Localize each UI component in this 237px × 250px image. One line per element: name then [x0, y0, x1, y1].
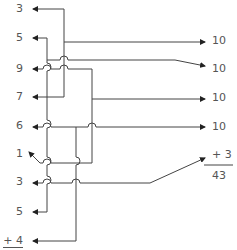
wire-1: [29, 99, 92, 163]
wire-6: [33, 123, 76, 127]
wire-plus-4: [33, 178, 76, 241]
right-number-2: 10: [212, 63, 226, 75]
wire-6-down: [76, 127, 80, 178]
left-number-2: 5: [16, 32, 23, 44]
wire-3-top: [33, 9, 64, 42]
right-number-3: 10: [212, 92, 226, 104]
left-number-7: 3: [16, 176, 23, 188]
wire-to-plus-3: [150, 158, 205, 183]
left-number-3: 9: [16, 63, 23, 75]
left-number-8: 5: [16, 206, 23, 218]
left-number-5: 6: [16, 120, 23, 132]
right-number-4: 10: [212, 121, 226, 133]
wire-9: [33, 65, 92, 99]
connector-lines: [0, 0, 237, 250]
wire-5-bottom: [33, 60, 51, 212]
left-number-1: 3: [16, 3, 23, 15]
wire-to-10-d: [76, 123, 205, 127]
left-number-6: 1: [16, 148, 23, 160]
addition-wire-diagram: 3 5 9 7 6 1 3 5 + 4 10 10 10 10 + 3 43: [0, 0, 237, 250]
wire-to-10-b: [47, 56, 205, 66]
wire-5-top: [33, 38, 47, 60]
sum-total: 43: [212, 170, 226, 182]
right-number-5: + 3: [212, 149, 232, 161]
right-number-1: 10: [212, 35, 226, 47]
left-number-4: 7: [16, 91, 23, 103]
left-number-9: + 4: [3, 235, 23, 248]
